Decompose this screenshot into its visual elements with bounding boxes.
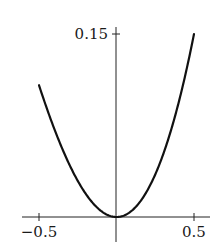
x-tick-label: −0.5 [21,223,57,241]
x-tick-label: 0.5 [182,223,206,241]
y-axis: 0.15 [75,25,120,242]
chart: −0.5 0.5 0.15 [0,0,216,247]
y-tick-label: 0.15 [75,25,108,43]
